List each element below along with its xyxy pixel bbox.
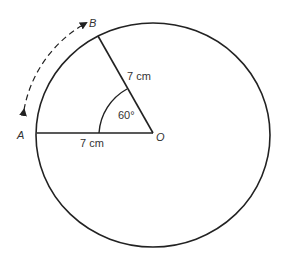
radius-label-ob: 7 cm [127, 70, 151, 82]
point-label-o: O [156, 131, 165, 143]
point-label-b: B [89, 17, 96, 29]
dashed-arrow-arc [24, 23, 86, 110]
point-label-a: A [16, 129, 24, 141]
circle-outline [36, 23, 270, 247]
diagram-canvas: B A O 7 cm 7 cm 60° [0, 0, 284, 256]
circle-sector-diagram: B A O 7 cm 7 cm 60° [0, 0, 284, 256]
angle-label: 60° [118, 109, 135, 121]
radius-label-oa: 7 cm [80, 137, 104, 149]
